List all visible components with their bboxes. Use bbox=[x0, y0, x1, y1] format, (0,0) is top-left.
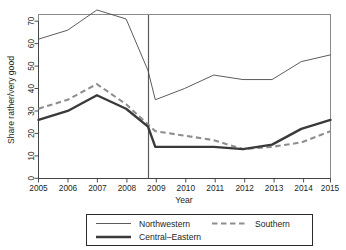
legend-label-northwestern: Northwestern bbox=[139, 219, 190, 229]
x-tick-label-2010: 2010 bbox=[177, 183, 196, 193]
plot-frame bbox=[39, 15, 331, 179]
x-tick-label-2006: 2006 bbox=[59, 183, 78, 193]
y-tick-label-50: 50 bbox=[26, 61, 36, 71]
x-axis-title: Year bbox=[175, 195, 193, 205]
series-line-central-eastern bbox=[39, 95, 331, 149]
x-tick-label-2009: 2009 bbox=[147, 183, 166, 193]
legend-label-central-eastern: Central–Eastern bbox=[139, 232, 201, 242]
y-axis: 70 60 50 40 30 20 10 0 Share rather/very… bbox=[6, 16, 39, 180]
y-tick-label-60: 60 bbox=[26, 39, 36, 49]
y-tick-label-20: 20 bbox=[26, 128, 36, 138]
x-tick-label-2005: 2005 bbox=[29, 183, 48, 193]
line-chart: 70 60 50 40 30 20 10 0 Share rather/very… bbox=[0, 0, 346, 250]
x-axis: 2005 2006 2007 2008 2009 2010 2011 2012 … bbox=[29, 179, 339, 206]
x-tick-label-2008: 2008 bbox=[118, 183, 137, 193]
y-tick-label-40: 40 bbox=[26, 84, 36, 94]
y-tick-label-30: 30 bbox=[26, 106, 36, 116]
legend-label-southern: Southern bbox=[255, 219, 290, 229]
x-tick-label-2015: 2015 bbox=[321, 183, 340, 193]
series-line-southern bbox=[39, 84, 331, 149]
y-tick-label-10: 10 bbox=[26, 151, 36, 161]
x-tick-label-2014: 2014 bbox=[294, 183, 313, 193]
y-tick-label-70: 70 bbox=[26, 16, 36, 26]
legend: Northwestern Southern Central–Eastern bbox=[87, 215, 313, 246]
x-tick-label-2013: 2013 bbox=[265, 183, 284, 193]
series-line-northwestern bbox=[39, 10, 331, 100]
y-axis-title: Share rather/very good bbox=[6, 56, 16, 144]
y-tick-label-0: 0 bbox=[26, 176, 36, 181]
x-tick-label-2007: 2007 bbox=[88, 183, 107, 193]
x-tick-label-2012: 2012 bbox=[235, 183, 254, 193]
x-tick-label-2011: 2011 bbox=[206, 183, 224, 193]
figure-container: 70 60 50 40 30 20 10 0 Share rather/very… bbox=[0, 0, 346, 250]
